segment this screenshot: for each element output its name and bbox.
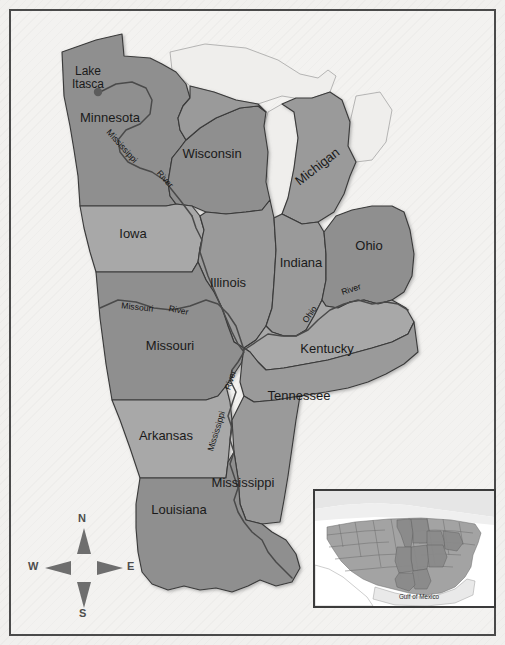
state-label-wisconsin: Wisconsin (182, 146, 241, 161)
compass-north-arrow-icon (77, 528, 91, 554)
gulf-of-mexico-label: Gulf of Mexico (399, 593, 440, 600)
compass-east-arrow-icon (97, 561, 123, 575)
state-label-iowa: Iowa (119, 226, 147, 241)
compass-west-label: W (28, 560, 38, 572)
state-label-arkansas: Arkansas (139, 428, 194, 443)
compass-south-label: S (79, 607, 86, 619)
compass-west-arrow-icon (45, 561, 71, 575)
state-label-minnesota: Minnesota (80, 110, 141, 125)
state-mississippi[interactable] (232, 396, 300, 524)
inset-map-svg: Gulf of Mexico (315, 491, 494, 606)
compass-north-label: N (78, 512, 86, 524)
compass-south-arrow-icon (77, 582, 91, 608)
state-label-louisiana: Louisiana (151, 502, 207, 517)
state-label-mississippi: Mississippi (212, 475, 275, 490)
place-label-lake-itasca: LakeItasca (72, 64, 104, 91)
state-label-tennessee: Tennessee (268, 388, 331, 403)
state-label-missouri: Missouri (146, 338, 195, 353)
map-figure: MinnesotaWisconsinMichiganIowaIllinoisIn… (0, 0, 505, 645)
inset-locator-map[interactable]: Gulf of Mexico (313, 489, 496, 608)
state-label-ohio: Ohio (355, 238, 382, 253)
compass-east-label: E (127, 560, 134, 572)
place-label-line2: Itasca (72, 77, 104, 91)
state-label-kentucky: Kentucky (300, 341, 354, 356)
state-label-illinois: Illinois (210, 275, 247, 290)
state-label-indiana: Indiana (280, 255, 323, 270)
state-ohio[interactable] (322, 206, 414, 308)
compass-rose: N S W E (28, 512, 140, 624)
place-label-line1: Lake (75, 64, 101, 78)
